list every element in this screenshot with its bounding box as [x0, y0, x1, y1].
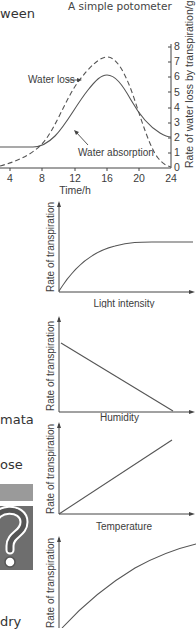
y-tick-2: 2: [174, 131, 180, 143]
light-intensity-chart: Rate of transpiration Light intensity: [40, 200, 196, 312]
question-mark-graphic: [0, 484, 34, 570]
water-absorption-curve: [0, 75, 171, 147]
x-axis-label: Time/h: [59, 184, 91, 196]
water-absorption-label: Water absorption: [78, 147, 154, 158]
y-label-light: Rate of transpiration: [45, 202, 56, 292]
x-tick-24: 24: [165, 172, 177, 184]
x-tick-20: 20: [133, 172, 145, 184]
y-tick-5: 5: [174, 86, 180, 98]
humidity-line: [61, 343, 173, 411]
y-tick-6: 6: [174, 70, 180, 82]
y-tick-7: 7: [174, 55, 180, 67]
y-label-temperature: Rate of transpiration: [45, 424, 56, 514]
light-intensity-curve: [59, 242, 193, 291]
x-tick-12: 12: [69, 172, 81, 184]
cropped-text-close: ose: [0, 457, 23, 472]
cropped-text-stomata: mata: [0, 412, 34, 427]
x-tick-8: 8: [39, 172, 45, 184]
fourth-curve: [62, 544, 196, 628]
y-label-humidity: Rate of transpiration: [45, 321, 56, 411]
temperature-line: [59, 440, 172, 514]
cropped-text-bottom: dry: [0, 614, 21, 629]
y-tick-8: 8: [174, 40, 180, 52]
humidity-chart: Rate of transpiration: [40, 305, 196, 421]
y-label-fourth: Rate of transpiration: [45, 538, 56, 628]
x-label-temperature: Temperature: [96, 521, 153, 532]
fourth-chart: Rate of transpiration: [40, 533, 196, 632]
x-tick-16: 16: [101, 172, 113, 184]
temperature-chart: Rate of transpiration Temperature: [40, 422, 196, 536]
y-tick-3: 3: [174, 116, 180, 128]
x-tick-4: 4: [7, 172, 13, 184]
y-tick-4: 4: [174, 101, 180, 113]
water-loss-label: Water loss: [28, 74, 75, 85]
potometer-chart: 0 1 2 3 4 5 6 7 8 4 8 12 16 20 24 Time/h…: [0, 0, 196, 204]
y-axis-label: Rate of water loss by transpiration/g h⁻…: [183, 0, 195, 168]
y-tick-1: 1: [174, 146, 180, 158]
